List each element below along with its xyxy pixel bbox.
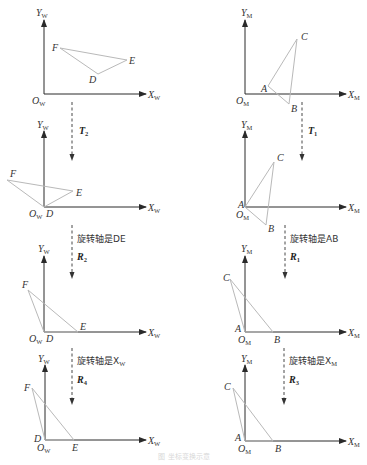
- vertex-c: C: [224, 381, 231, 392]
- y-axis-label: YW: [38, 353, 51, 365]
- arrow-head-icon: [70, 272, 75, 279]
- vertex-e: E: [75, 187, 82, 198]
- arrow-head-icon: [282, 398, 287, 405]
- triangle-fde: [28, 290, 78, 332]
- left-transition-3: 旋转轴是XW R4: [70, 348, 127, 405]
- x-axis-label: XW: [147, 89, 161, 101]
- y-axis-label: YM: [241, 243, 253, 255]
- rotation-axis-note: 旋转轴是AB: [290, 233, 338, 244]
- vertex-a: A: [234, 432, 242, 443]
- origin-label: OM: [238, 334, 251, 346]
- origin-label: OM: [236, 209, 249, 221]
- vertex-b: B: [275, 443, 281, 454]
- left-transition-1: T2: [70, 102, 89, 161]
- x-axis-label: XW: [147, 202, 161, 214]
- vertex-b: B: [291, 103, 297, 114]
- vertex-e: E: [79, 321, 86, 332]
- x-axis-label: XM: [347, 89, 360, 101]
- triangle-abc: [245, 162, 274, 225]
- vertex-d: D: [33, 433, 42, 444]
- y-axis-label: YM: [241, 353, 253, 365]
- vertex-d: D: [45, 333, 54, 344]
- vertex-f: F: [23, 382, 31, 393]
- right-transition-1: T1: [300, 102, 318, 161]
- vertex-c: C: [277, 152, 284, 163]
- vertex-a: A: [237, 199, 245, 210]
- op-label: T2: [79, 125, 88, 137]
- op-label: R2: [76, 251, 87, 263]
- op-label: R3: [288, 374, 300, 386]
- triangle-fde: [60, 48, 127, 74]
- y-axis-label: YM: [241, 7, 253, 19]
- left-panel-4: YW XW OW F E D: [23, 353, 161, 454]
- op-label: T1: [308, 125, 317, 137]
- vertex-f: F: [9, 168, 17, 179]
- origin-label: OW: [29, 208, 43, 220]
- y-axis-label: YW: [36, 7, 49, 19]
- op-label: R4: [76, 374, 88, 386]
- origin-label: OM: [236, 95, 249, 107]
- right-panel-4: YM XM OM C A B: [224, 353, 360, 455]
- y-axis-label: YW: [37, 119, 50, 131]
- arrow-head-icon: [70, 154, 75, 161]
- y-axis-label: YM: [241, 119, 253, 131]
- vertex-c: C: [301, 31, 308, 42]
- vertex-c: C: [223, 272, 230, 283]
- rotation-axis-note: 旋转轴是XM: [289, 355, 337, 367]
- rotation-axis-note: 旋转轴是DE: [77, 233, 126, 244]
- left-panel-1: YW XW OW F E D: [32, 7, 161, 107]
- vertex-f: F: [51, 42, 59, 53]
- arrow-head-icon: [300, 154, 305, 161]
- x-axis-label: XW: [147, 327, 161, 339]
- origin-label: OM: [238, 443, 251, 455]
- arrow-head-icon: [283, 272, 288, 279]
- x-axis-label: XM: [347, 436, 360, 448]
- arrow-head-icon: [70, 398, 75, 405]
- rotation-axis-note: 旋转轴是XW: [77, 355, 126, 367]
- vertex-a: A: [260, 83, 268, 94]
- figure-caption: 图 坐标变换示意: [158, 452, 209, 461]
- vertex-a: A: [234, 323, 242, 334]
- vertex-e: E: [128, 55, 135, 66]
- right-panel-1: YM XM OM C A B: [236, 7, 360, 114]
- left-panel-3: YW XW OW F E D: [21, 243, 161, 345]
- x-axis-label: XM: [347, 202, 360, 214]
- right-transition-2: 旋转轴是AB R1: [283, 225, 339, 279]
- coordinate-transform-diagram: YW XW OW F E D T2 YW XW OW F E D 旋转轴是DE …: [0, 0, 367, 465]
- vertex-f: F: [21, 279, 29, 290]
- left-transition-2: 旋转轴是DE R2: [70, 225, 126, 279]
- op-label: R1: [289, 251, 300, 263]
- y-axis-label: YW: [38, 243, 51, 255]
- vertex-d: D: [45, 208, 54, 219]
- triangle-fde: [7, 180, 73, 207]
- right-panel-2: YM XM OM A C B: [236, 119, 360, 234]
- right-transition-3: 旋转轴是XM R3: [282, 348, 338, 405]
- x-axis-label: XM: [347, 327, 360, 339]
- vertex-d: D: [88, 74, 97, 85]
- origin-label: OW: [32, 95, 46, 107]
- vertex-b: B: [274, 334, 280, 345]
- vertex-b: B: [268, 223, 274, 234]
- vertex-e: E: [71, 442, 78, 453]
- x-axis-label: XW: [147, 435, 161, 447]
- origin-label: OW: [29, 333, 43, 345]
